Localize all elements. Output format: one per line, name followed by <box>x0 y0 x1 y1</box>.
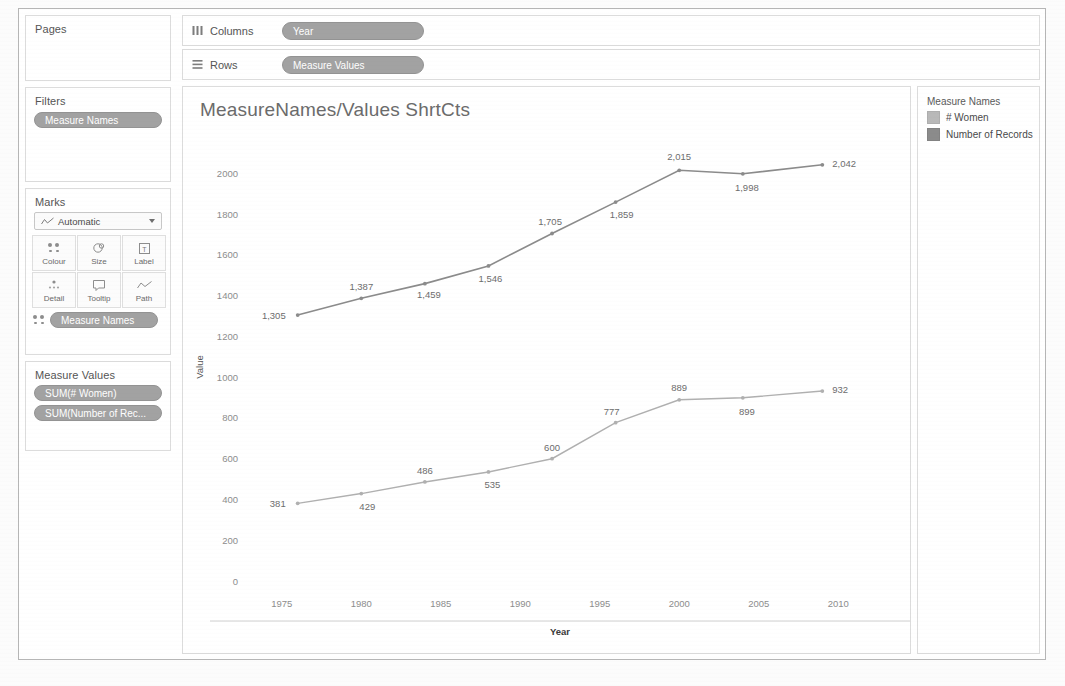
rows-shelf[interactable]: Rows Measure Values <box>182 49 1040 80</box>
measure-value-pill-records[interactable]: SUM(Number of Rec... <box>34 405 162 421</box>
x-tick-label: 1985 <box>430 598 451 609</box>
series-number-of-records[interactable]: 1,3051,3871,4591,5461,7051,8592,0151,998… <box>262 151 856 321</box>
data-point-label: 381 <box>270 498 286 509</box>
y-tick-label: 200 <box>222 535 238 546</box>
data-point-label: 2,042 <box>832 158 856 169</box>
legend-label-records: Number of Records <box>946 129 1033 140</box>
data-point[interactable] <box>487 264 491 268</box>
y-tick-label: 600 <box>222 453 238 464</box>
data-point[interactable] <box>741 172 745 176</box>
visualization-pane[interactable]: MeasureNames/Values ShrtCts 020040060080… <box>182 86 911 654</box>
svg-text:T: T <box>142 245 147 252</box>
data-point[interactable] <box>614 200 618 204</box>
y-axis-title: Value <box>194 355 205 379</box>
data-point[interactable] <box>820 163 824 167</box>
marks-button-colour[interactable]: Colour <box>32 235 76 271</box>
data-point-label: 486 <box>417 465 433 476</box>
x-tick-label: 1975 <box>271 598 292 609</box>
data-point[interactable] <box>423 282 427 286</box>
x-tick-label: 2000 <box>669 598 690 609</box>
pages-label: Pages <box>26 16 170 35</box>
legend-item-records[interactable]: Number of Records <box>918 124 1039 141</box>
data-point-label: 1,859 <box>610 209 634 220</box>
series-number-women[interactable]: 381429486535600777889899932 <box>270 382 848 512</box>
x-tick-label: 1990 <box>510 598 531 609</box>
legend-item-women[interactable]: # Women <box>918 107 1039 124</box>
size-circle-icon <box>92 240 106 256</box>
measure-values-card[interactable]: Measure Values SUM(# Women) SUM(Number o… <box>25 361 171 451</box>
data-point[interactable] <box>614 421 618 425</box>
y-tick-label: 1200 <box>217 331 238 342</box>
line-chart[interactable]: 0200400600800100012001400160018002000Val… <box>183 87 910 653</box>
data-point-label: 1,459 <box>417 289 441 300</box>
x-tick-label: 1980 <box>351 598 372 609</box>
line-chart-icon <box>41 217 54 226</box>
left-shelf-column: Pages Filters Measure Names Marks Automa… <box>19 9 176 659</box>
data-point[interactable] <box>359 492 363 496</box>
data-point-label: 600 <box>544 442 560 453</box>
data-point[interactable] <box>296 501 300 505</box>
data-point[interactable] <box>296 313 300 317</box>
data-point[interactable] <box>820 389 824 393</box>
marks-button-size-label: Size <box>91 257 107 266</box>
y-tick-label: 0 <box>233 576 238 587</box>
rows-pill-measure-values[interactable]: Measure Values <box>282 56 424 74</box>
detail-dots-icon <box>47 277 61 293</box>
marks-button-size[interactable]: Size <box>77 235 121 271</box>
marks-button-path[interactable]: Path <box>122 272 166 308</box>
x-tick-label: 2010 <box>828 598 849 609</box>
marks-button-detail[interactable]: Detail <box>32 272 76 308</box>
label-text-icon: T <box>138 240 151 256</box>
marks-label: Marks <box>26 189 170 208</box>
measure-value-pill-women[interactable]: SUM(# Women) <box>34 385 162 401</box>
legend-label-women: # Women <box>946 112 989 123</box>
data-point[interactable] <box>550 457 554 461</box>
data-point-label: 535 <box>485 479 501 490</box>
marks-button-label-label: Label <box>134 257 154 266</box>
data-point[interactable] <box>487 470 491 474</box>
data-point[interactable] <box>359 296 363 300</box>
y-tick-label: 2000 <box>217 168 238 179</box>
data-point[interactable] <box>741 396 745 400</box>
colour-dots-icon <box>48 240 60 256</box>
data-point[interactable] <box>423 480 427 484</box>
marks-pill-measure-names[interactable]: Measure Names <box>50 312 158 328</box>
data-point-label: 2,015 <box>667 151 691 162</box>
filter-pill-measure-names[interactable]: Measure Names <box>34 112 162 128</box>
colour-legend[interactable]: Measure Names # Women Number of Records <box>917 86 1040 654</box>
colour-dots-icon <box>33 315 45 326</box>
measure-values-label: Measure Values <box>26 362 170 381</box>
columns-shelf[interactable]: Columns Year <box>182 15 1040 46</box>
x-tick-label: 2005 <box>748 598 769 609</box>
data-point-label: 899 <box>739 406 755 417</box>
filters-label: Filters <box>26 88 170 107</box>
tableau-worksheet-screenshot: Pages Filters Measure Names Marks Automa… <box>0 0 1065 686</box>
data-point-label: 1,387 <box>349 281 373 292</box>
legend-swatch-women <box>927 111 940 124</box>
chevron-down-icon[interactable] <box>149 219 155 223</box>
data-point[interactable] <box>677 398 681 402</box>
rows-icon <box>192 56 203 74</box>
data-point[interactable] <box>677 168 681 172</box>
marks-type-dropdown[interactable]: Automatic <box>34 212 162 230</box>
marks-button-tooltip[interactable]: Tooltip <box>77 272 121 308</box>
marks-colour-encoding-row: Measure Names <box>33 312 158 328</box>
tooltip-bubble-icon <box>92 277 106 293</box>
rows-shelf-label: Rows <box>210 59 282 71</box>
y-tick-label: 1600 <box>217 249 238 260</box>
marks-card[interactable]: Marks Automatic Colour <box>25 188 171 355</box>
data-point-label: 1,305 <box>262 310 286 321</box>
y-tick-label: 1800 <box>217 209 238 220</box>
data-point-label: 1,546 <box>479 273 503 284</box>
filters-card[interactable]: Filters Measure Names <box>25 87 171 182</box>
data-point-label: 889 <box>671 382 687 393</box>
marks-button-label[interactable]: T Label <box>122 235 166 271</box>
marks-button-detail-label: Detail <box>44 294 64 303</box>
marks-buttons-grid: Colour Size <box>32 235 166 308</box>
data-point[interactable] <box>550 232 554 236</box>
y-tick-label: 800 <box>222 412 238 423</box>
legend-swatch-records <box>927 128 940 141</box>
columns-pill-year[interactable]: Year <box>282 22 424 40</box>
marks-type-label: Automatic <box>58 216 100 227</box>
pages-card[interactable]: Pages <box>25 15 171 81</box>
